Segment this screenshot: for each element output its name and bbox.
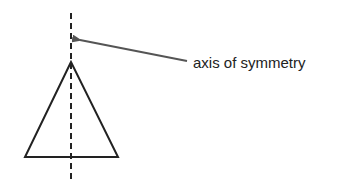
symmetry-diagram — [0, 0, 363, 187]
pointer-arrow — [80, 40, 187, 61]
axis-label: axis of symmetry — [193, 54, 306, 71]
